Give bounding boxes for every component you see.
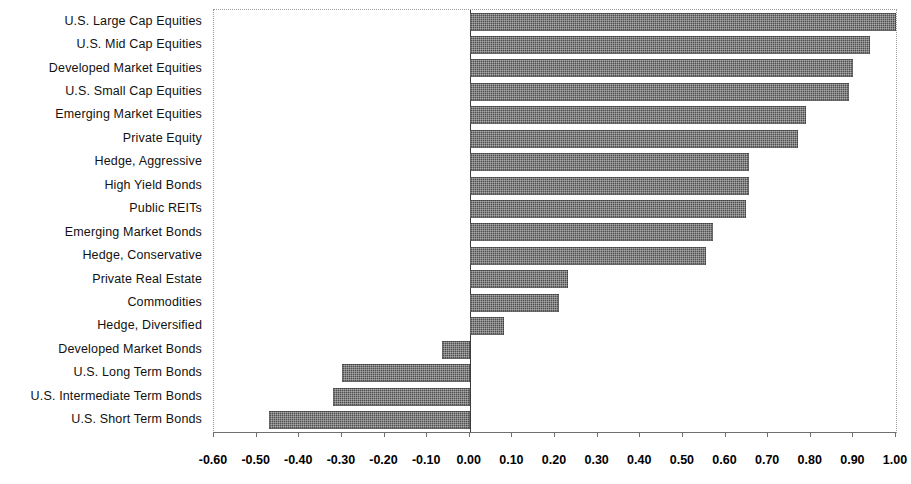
bar <box>470 294 560 312</box>
category-label: Hedge, Aggressive <box>0 150 208 173</box>
bar-row <box>214 362 896 385</box>
bar <box>470 36 871 54</box>
x-axis-tick-label: -0.60 <box>199 453 228 467</box>
bar-row <box>214 408 896 431</box>
x-axis-tick-label: -0.40 <box>284 453 313 467</box>
x-axis-tick-label: 0.20 <box>542 453 566 467</box>
category-axis: U.S. Large Cap EquitiesU.S. Mid Cap Equi… <box>0 9 208 431</box>
bar <box>470 317 504 335</box>
category-label: High Yield Bonds <box>0 173 208 196</box>
category-label: Public REITs <box>0 197 208 220</box>
bar <box>442 341 470 359</box>
bar-row <box>214 244 896 267</box>
category-label: Developed Market Equities <box>0 56 208 79</box>
correlation-bar-chart: U.S. Large Cap EquitiesU.S. Mid Cap Equi… <box>0 0 911 484</box>
category-label: Private Real Estate <box>0 267 208 290</box>
bar <box>470 247 707 265</box>
x-axis-tick-label: 0.60 <box>712 453 736 467</box>
bar-row <box>214 10 896 33</box>
bar-row <box>214 385 896 408</box>
x-axis-tick-label: 0.00 <box>457 453 481 467</box>
bar-row <box>214 198 896 221</box>
x-axis-tick-label: -0.10 <box>412 453 441 467</box>
x-axis-tick <box>554 432 555 437</box>
category-label: U.S. Small Cap Equities <box>0 79 208 102</box>
category-label: Private Equity <box>0 126 208 149</box>
x-axis-tick-label: -0.20 <box>369 453 398 467</box>
category-label: Hedge, Diversified <box>0 314 208 337</box>
x-axis-tick <box>384 432 385 437</box>
bar <box>470 83 849 101</box>
x-axis-tick-label: 0.50 <box>670 453 694 467</box>
x-axis-tick <box>213 432 214 437</box>
x-axis-tick <box>469 432 470 437</box>
x-axis-tick-label: 1.00 <box>883 453 907 467</box>
bar-row <box>214 127 896 150</box>
x-axis-tick <box>597 432 598 437</box>
x-axis-tick <box>767 432 768 437</box>
bar-row <box>214 174 896 197</box>
plot-area <box>213 9 897 433</box>
bar-row <box>214 80 896 103</box>
x-axis-tick-label: 0.90 <box>840 453 864 467</box>
bar <box>333 388 469 406</box>
bar-row <box>214 291 896 314</box>
bar-row <box>214 221 896 244</box>
bar-row <box>214 33 896 56</box>
bar <box>470 106 807 124</box>
bar <box>269 411 469 429</box>
bar-row <box>214 268 896 291</box>
x-axis-tick <box>511 432 512 437</box>
bar-row <box>214 315 896 338</box>
bar <box>470 200 746 218</box>
bar <box>342 364 470 382</box>
category-label: Emerging Market Bonds <box>0 220 208 243</box>
x-axis-tick <box>810 432 811 437</box>
category-label: Developed Market Bonds <box>0 337 208 360</box>
category-label: U.S. Mid Cap Equities <box>0 32 208 55</box>
x-axis-tick <box>895 432 896 437</box>
x-axis-tick <box>725 432 726 437</box>
bar <box>470 130 798 148</box>
category-label: Emerging Market Equities <box>0 103 208 126</box>
x-axis <box>213 432 896 433</box>
x-axis-tick <box>426 432 427 437</box>
bar <box>470 177 749 195</box>
bars-layer <box>214 10 896 432</box>
x-axis-tick <box>298 432 299 437</box>
x-axis-tick-label: 0.80 <box>798 453 822 467</box>
x-axis-tick-label: -0.30 <box>327 453 356 467</box>
category-label: U.S. Intermediate Term Bonds <box>0 384 208 407</box>
x-axis-tick <box>256 432 257 437</box>
x-axis-tick-label: 0.10 <box>499 453 523 467</box>
x-axis-tick-label: -0.50 <box>241 453 270 467</box>
category-label: Hedge, Conservative <box>0 243 208 266</box>
bar-row <box>214 57 896 80</box>
bar <box>470 59 854 77</box>
bar-row <box>214 338 896 361</box>
x-axis-tick <box>682 432 683 437</box>
category-label: Commodities <box>0 290 208 313</box>
category-label: U.S. Long Term Bonds <box>0 361 208 384</box>
bar <box>470 270 568 288</box>
bar <box>470 153 749 171</box>
x-axis-tick <box>341 432 342 437</box>
x-axis-tick-label: 0.40 <box>627 453 651 467</box>
x-axis-tick-labels: -0.60-0.50-0.40-0.30-0.20-0.100.000.100.… <box>0 453 911 473</box>
bar-row <box>214 104 896 127</box>
category-label: U.S. Short Term Bonds <box>0 407 208 430</box>
bar <box>470 223 713 241</box>
x-axis-tick <box>639 432 640 437</box>
x-axis-tick-label: 0.70 <box>755 453 779 467</box>
x-axis-tick <box>852 432 853 437</box>
bar <box>470 13 896 31</box>
category-label: U.S. Large Cap Equities <box>0 9 208 32</box>
bar-row <box>214 151 896 174</box>
x-axis-tick-label: 0.30 <box>584 453 608 467</box>
